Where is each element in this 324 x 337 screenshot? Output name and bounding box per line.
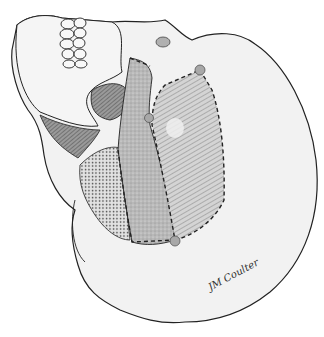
pale-spot — [166, 118, 184, 138]
landmark-top — [195, 65, 205, 75]
landmark-mid — [145, 114, 154, 123]
foramen-oval — [156, 37, 170, 47]
landmark-bottom — [170, 236, 180, 246]
